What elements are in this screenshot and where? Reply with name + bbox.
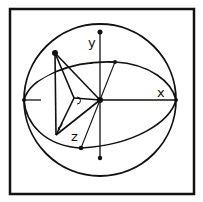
equator-gap <box>36 70 54 80</box>
bloch-sphere-diagram: y x z - <box>0 0 203 202</box>
x-axis-point <box>174 98 178 102</box>
state-vector <box>55 53 100 100</box>
y-minus-tick-label: - <box>89 56 93 69</box>
z-axis <box>81 62 115 148</box>
inner-to-origin <box>74 98 100 100</box>
z-axis-front-point <box>79 146 84 151</box>
phi-angle-marker <box>58 123 62 130</box>
z-axis-back-point <box>113 60 117 64</box>
state-point <box>52 50 58 56</box>
projection-line-inner <box>55 53 74 98</box>
x-axis-label: x <box>157 85 165 100</box>
z-axis-label: z <box>71 129 78 144</box>
projection-vertical <box>55 53 56 135</box>
y-axis-bottom-point <box>98 156 102 160</box>
y-axis-label: y <box>88 35 96 50</box>
y-axis-top-point <box>98 30 103 35</box>
x-axis-negative-point <box>22 98 26 102</box>
